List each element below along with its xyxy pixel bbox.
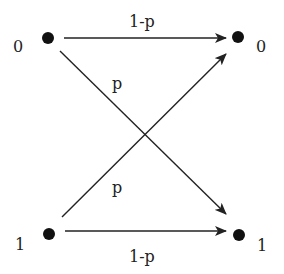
edge-label-0-0: 1-p: [129, 12, 155, 31]
edge-label-1-1: 1-p: [129, 247, 155, 266]
output-node-1: [233, 229, 245, 241]
edge-0-to-1: [60, 51, 226, 214]
input-label-1: 1: [15, 235, 25, 254]
bsc-diagram: 0 0 1 1 1-p p p 1-p: [0, 0, 284, 274]
input-node-1: [43, 228, 55, 240]
output-node-0: [232, 31, 244, 43]
output-label-0: 0: [256, 37, 266, 56]
output-label-1: 1: [257, 236, 267, 255]
edge-1-to-0: [62, 54, 226, 217]
input-label-0: 0: [13, 37, 23, 56]
input-node-0: [42, 32, 54, 44]
edge-label-1-0: p: [112, 178, 122, 197]
edge-label-0-1: p: [112, 74, 122, 93]
